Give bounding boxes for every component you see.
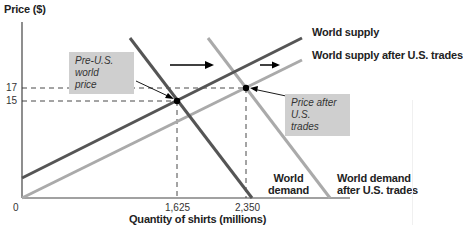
- world-demand-label-line2: demand: [268, 184, 309, 196]
- supply-shift-arrow-icon: [260, 62, 280, 69]
- post-trade-price-callout: Price after U.S. trades: [285, 94, 350, 136]
- y-tick-15: 15: [6, 95, 17, 106]
- world-demand-after-label-line2: after U.S. trades: [337, 184, 418, 196]
- pre-trade-price-callout-line2: price: [75, 79, 128, 91]
- x-axis-label: Quantity of shirts (millions): [129, 213, 266, 225]
- y-tick-17: 17: [6, 82, 17, 93]
- post-trade-equilibrium-point: [243, 85, 249, 91]
- world-demand-line: [130, 38, 252, 198]
- post-trade-price-callout-line2: trades: [291, 121, 344, 133]
- page-edge-divider: [412, 100, 413, 225]
- origin-label: 0: [13, 202, 19, 213]
- pre-trade-price-callout: Pre-U.S. world price: [69, 52, 134, 94]
- world-demand-after-label: World demand after U.S. trades: [337, 172, 418, 196]
- post-trade-price-callout-line1: Price after U.S.: [291, 97, 344, 121]
- demand-shift-arrow-icon: [170, 61, 214, 69]
- pre-trade-price-callout-line1: Pre-U.S. world: [75, 55, 128, 79]
- x-tick-1625: 1,625: [165, 202, 190, 213]
- y-axis-label: Price ($): [4, 3, 46, 15]
- world-demand-after-label-line1: World demand: [337, 172, 418, 184]
- after-price-pointer-arrow-icon: [250, 86, 286, 96]
- x-tick-2350: 2,350: [235, 202, 260, 213]
- world-demand-label-line1: World: [268, 172, 309, 184]
- world-supply-label: World supply: [312, 26, 379, 38]
- world-demand-label: World demand: [268, 172, 309, 196]
- world-supply-after-label: World supply after U.S. trades: [312, 49, 463, 61]
- pre-trade-equilibrium-point: [174, 98, 180, 104]
